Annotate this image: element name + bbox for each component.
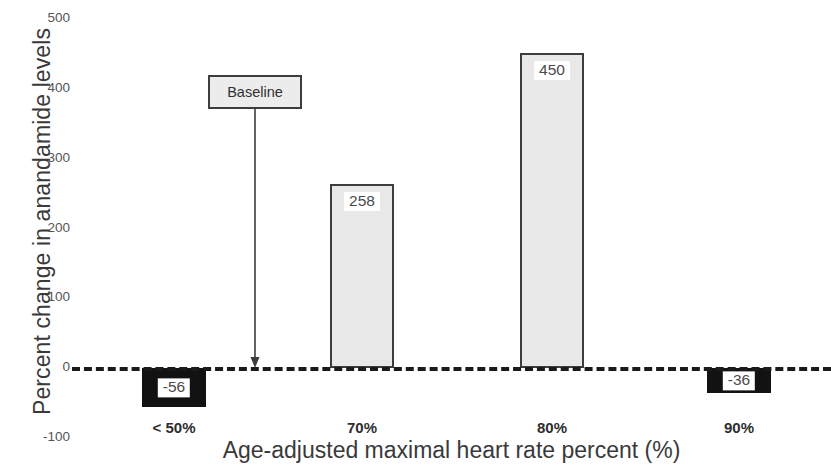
baseline-callout-label: Baseline <box>227 84 283 100</box>
y-tick-label: -100 <box>8 430 70 444</box>
bar-chart: Percent change in anandamide levels 500 … <box>0 0 831 466</box>
x-tick-label-80: 80% <box>512 419 592 436</box>
baseline-arrow-icon <box>72 0 831 466</box>
y-tick-label: 200 <box>8 221 70 235</box>
y-tick-label: 300 <box>8 151 70 165</box>
x-tick-label-90: 90% <box>699 419 779 436</box>
y-tick-label: 500 <box>8 11 70 25</box>
x-tick-label-lt-50: < 50% <box>134 419 214 436</box>
y-tick-label: 0 <box>8 360 70 374</box>
x-axis-title: Age-adjusted maximal heart rate percent … <box>72 437 831 464</box>
plot-area: -56 258 450 -36 Baseline < 50% 70% 80% 9… <box>72 0 831 466</box>
baseline-callout-box[interactable]: Baseline <box>208 75 302 109</box>
x-tick-label-70: 70% <box>322 419 402 436</box>
y-tick-label: 100 <box>8 290 70 304</box>
y-axis-tick-labels: 500 400 300 200 100 0 -100 <box>0 0 70 466</box>
y-tick-label: 400 <box>8 81 70 95</box>
